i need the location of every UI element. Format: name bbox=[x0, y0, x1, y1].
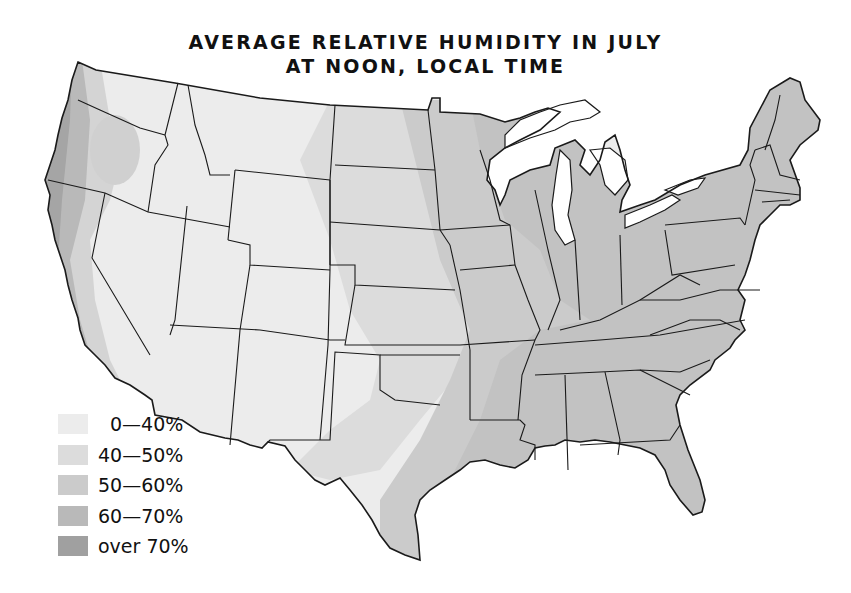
legend-label: over 70% bbox=[98, 533, 189, 559]
title-line-2: AT NOON, LOCAL TIME bbox=[0, 54, 851, 78]
legend-swatch bbox=[58, 536, 88, 556]
legend-swatch bbox=[58, 475, 88, 495]
legend-label: 0—40% bbox=[110, 411, 183, 437]
legend-item-0-40: 0—40% bbox=[58, 411, 258, 442]
legend: 0—40% 40—50% 50—60% 60—70% over 70% bbox=[58, 411, 258, 564]
legend-item-over-70: over 70% bbox=[58, 533, 258, 564]
legend-swatch bbox=[58, 414, 88, 434]
legend-label: 60—70% bbox=[98, 503, 183, 529]
map-title: AVERAGE RELATIVE HUMIDITY IN JULY AT NOO… bbox=[0, 30, 851, 78]
legend-swatch bbox=[58, 506, 88, 526]
zone-oregon-pocket bbox=[90, 115, 140, 185]
legend-swatch bbox=[58, 445, 88, 465]
legend-label: 50—60% bbox=[98, 472, 183, 498]
legend-item-50-60: 50—60% bbox=[58, 472, 258, 503]
title-line-1: AVERAGE RELATIVE HUMIDITY IN JULY bbox=[189, 31, 663, 53]
legend-label: 40—50% bbox=[98, 442, 183, 468]
legend-item-60-70: 60—70% bbox=[58, 503, 258, 534]
legend-item-40-50: 40—50% bbox=[58, 442, 258, 473]
